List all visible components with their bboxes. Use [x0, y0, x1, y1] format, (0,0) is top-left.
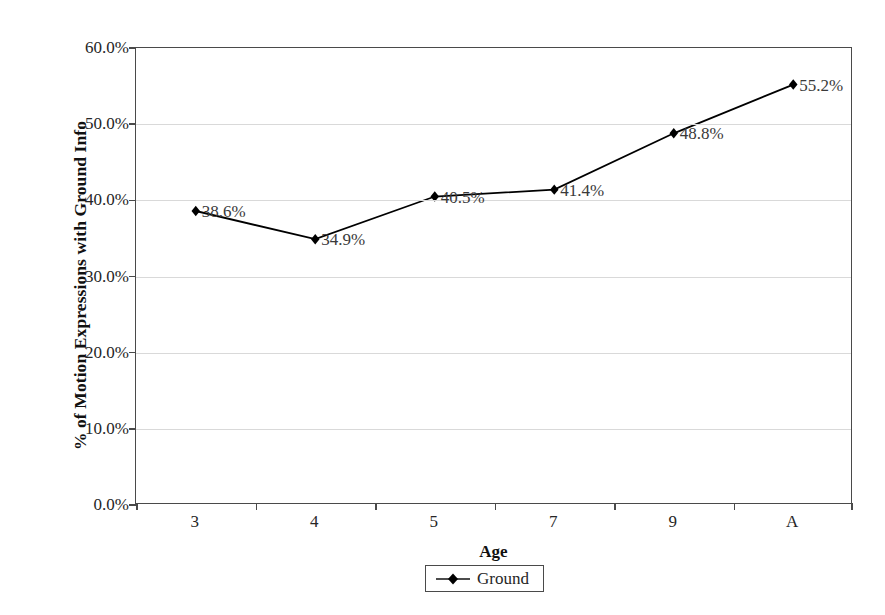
chart-legend: Ground — [425, 565, 544, 592]
y-axis-tick-label: 50.0% — [49, 115, 129, 132]
y-axis-tick-label: 40.0% — [49, 191, 129, 208]
line-chart: % of Motion Expressions with Ground Info… — [0, 0, 885, 615]
x-axis-tick-mark — [256, 503, 258, 510]
data-point-marker — [669, 128, 678, 138]
x-axis-tick-label: 4 — [284, 512, 344, 532]
data-point-label: 38.6% — [202, 202, 246, 219]
x-axis-tick-mark — [495, 503, 497, 510]
plot-area — [135, 47, 852, 504]
gridline — [136, 429, 851, 430]
x-axis-title: Age — [135, 542, 852, 562]
x-axis-tick-mark — [734, 503, 736, 510]
x-axis-tick-label: A — [762, 512, 822, 532]
y-axis-tick-mark — [129, 200, 136, 202]
y-axis-tick-labels: 0.0%10.0%20.0%30.0%40.0%50.0%60.0% — [45, 0, 129, 615]
x-axis-tick-label: 7 — [523, 512, 583, 532]
legend-item-ground: Ground — [477, 570, 533, 587]
data-point-label: 55.2% — [799, 76, 843, 93]
y-axis-tick-mark — [129, 47, 136, 49]
gridline — [136, 353, 851, 354]
x-axis-tick-mark — [614, 503, 616, 510]
y-axis-tick-mark — [129, 504, 136, 506]
y-axis-tick-mark — [129, 428, 136, 430]
data-point-label: 48.8% — [680, 125, 724, 142]
data-point-marker — [311, 234, 320, 244]
x-axis-tick-label: 9 — [643, 512, 703, 532]
x-axis-tick-mark — [136, 503, 138, 510]
gridline — [136, 277, 851, 278]
x-axis-tick-label: 3 — [165, 512, 225, 532]
data-point-marker — [191, 206, 200, 216]
y-axis-tick-label: 0.0% — [49, 496, 129, 513]
legend-marker-diamond-icon — [436, 572, 470, 586]
y-axis-tick-label: 60.0% — [49, 39, 129, 56]
y-axis-tick-mark — [129, 352, 136, 354]
y-axis-tick-mark — [129, 123, 136, 125]
data-point-marker — [789, 79, 798, 89]
gridline — [136, 124, 851, 125]
series-line — [196, 85, 794, 240]
y-axis-tick-label: 10.0% — [49, 419, 129, 436]
y-axis-tick-mark — [129, 276, 136, 278]
y-axis-tick-label: 30.0% — [49, 267, 129, 284]
data-point-label: 40.5% — [441, 188, 485, 205]
data-point-label: 34.9% — [321, 231, 365, 248]
x-axis-tick-label: 5 — [404, 512, 464, 532]
data-point-label: 41.4% — [560, 181, 604, 198]
data-point-marker — [550, 184, 559, 194]
y-axis-tick-label: 20.0% — [49, 343, 129, 360]
x-axis-tick-mark — [375, 503, 377, 510]
x-axis-tick-mark — [851, 503, 853, 510]
